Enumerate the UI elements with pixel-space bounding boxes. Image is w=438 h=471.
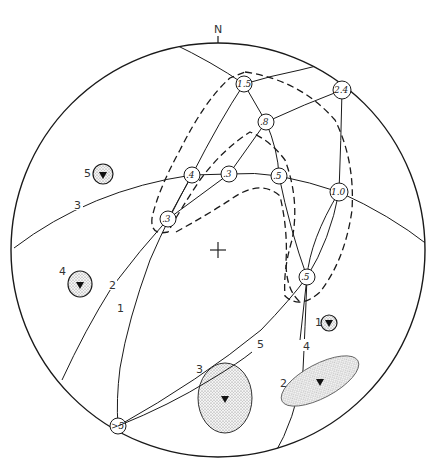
node-1-5: 1.5 xyxy=(236,76,252,92)
svg-text:>5: >5 xyxy=(111,421,125,431)
node-0-3-upper: .3 xyxy=(221,166,237,182)
svg-text:2.4: 2.4 xyxy=(333,85,349,95)
region-1: 1 xyxy=(315,315,337,331)
great-circle-2 xyxy=(62,219,168,380)
node-0-5-upper: .5 xyxy=(271,168,287,184)
svg-text:1.0: 1.0 xyxy=(331,187,346,197)
svg-text:5: 5 xyxy=(84,167,91,180)
svg-text:.4: .4 xyxy=(186,170,195,180)
svg-text:4: 4 xyxy=(59,265,66,278)
net-segment xyxy=(266,77,381,122)
svg-text:.3: .3 xyxy=(223,169,232,179)
north-label: N xyxy=(214,23,222,36)
net-segment xyxy=(307,192,339,277)
net-segment xyxy=(229,122,266,174)
svg-text:.8: .8 xyxy=(260,117,269,127)
net-segment xyxy=(168,174,229,219)
gc-label-4: 4 xyxy=(303,340,310,353)
gc-label-2: 2 xyxy=(109,279,116,292)
svg-text:1.5: 1.5 xyxy=(237,79,252,89)
region-3: 3 xyxy=(196,363,252,433)
great-circle-labels: 1 2 3 4 5 xyxy=(73,198,311,353)
region-2: 2 xyxy=(274,346,366,416)
svg-text:.3: .3 xyxy=(162,214,171,224)
node-0-5-lower: .5 xyxy=(299,269,315,285)
svg-text:1: 1 xyxy=(315,316,322,329)
node-1-0: 1.0 xyxy=(330,183,348,201)
gc-label-5: 5 xyxy=(257,338,264,351)
svg-text:3: 3 xyxy=(196,363,203,376)
node-0-3-lower: .3 xyxy=(160,211,176,227)
node-2-4: 2.4 xyxy=(333,81,351,99)
gc-label-1: 1 xyxy=(117,302,124,315)
dashed-envelope-inner xyxy=(176,188,300,302)
svg-text:.5: .5 xyxy=(273,171,282,181)
svg-text:2: 2 xyxy=(280,377,287,390)
stereonet-diagram: N 1 2 3 4 5 1.5 .8 xyxy=(0,0,438,471)
region-5: 5 xyxy=(84,164,113,184)
node-0-8: .8 xyxy=(258,114,274,130)
svg-text:.5: .5 xyxy=(301,272,310,282)
region-4: 4 xyxy=(59,265,92,297)
gc-label-3: 3 xyxy=(74,199,81,212)
node-0-4: .4 xyxy=(184,167,200,183)
center-cross-icon xyxy=(210,242,226,258)
